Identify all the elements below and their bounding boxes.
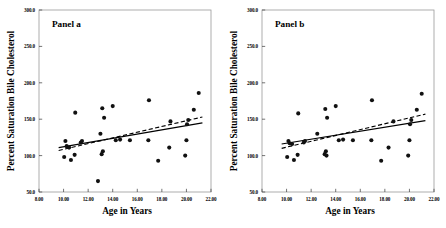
data-point [183,154,187,158]
data-point [184,138,188,142]
data-point [290,142,294,146]
data-point [285,155,289,159]
data-point [101,149,105,153]
data-point [98,132,102,136]
y-tick-label: 200.0 [24,80,36,86]
x-tick-label: 18.00 [156,196,168,202]
y-tick-label: 200.0 [247,80,259,86]
y-tick-label: 100.0 [247,153,259,159]
data-point [186,118,190,122]
data-point [73,153,77,157]
y-tick-label: 150.0 [24,116,36,122]
data-point [386,146,390,150]
data-points [285,92,424,163]
data-point [118,138,122,142]
data-point [370,98,374,102]
data-point [80,139,84,143]
data-point [334,104,338,108]
figure-container: 8.0010.0012.0014.0016.0018.0020.0022.005… [0,0,446,228]
y-tick-label: 250.0 [24,43,36,49]
y-tick-label: 300.0 [247,7,259,13]
panel-b: 8.0010.0012.0014.0016.0018.0020.0022.005… [223,0,446,228]
x-tick-label: 22.00 [206,196,218,202]
y-tick-label: 250.0 [247,43,259,49]
data-point [303,139,307,143]
data-point [167,146,171,150]
data-point [369,138,373,142]
data-point [351,138,355,142]
plot-area: 8.0010.0012.0014.0016.0018.0020.0022.005… [223,0,446,228]
data-point [408,122,412,126]
data-point [415,108,419,112]
data-point [296,153,300,157]
data-point [114,138,118,142]
data-point [63,139,67,143]
x-tick-label: 20.00 [181,196,193,202]
x-tick-label: 16.00 [132,196,144,202]
x-tick-label: 14.00 [107,196,119,202]
data-point [69,158,73,162]
data-point [62,155,66,159]
x-tick-label: 20.00 [404,196,416,202]
data-point [185,122,189,126]
x-axis-title: Age in Years [102,206,152,216]
y-tick-label: 300.0 [24,7,36,13]
data-point [323,107,327,111]
data-point [406,154,410,158]
x-axis: 8.0010.0012.0014.0016.0018.0020.0022.00 [35,189,217,202]
data-point [407,138,411,142]
x-tick-label: 22.00 [429,196,441,202]
data-point [96,179,100,183]
x-tick-label: 10.00 [58,196,70,202]
x-axis: 8.0010.0012.0014.0016.0018.0020.0022.00 [258,189,440,202]
panel-title: Panel a [52,19,81,29]
y-axis: 50.0100.0150.0200.0250.0300.0 [247,7,265,195]
data-point [391,119,395,123]
data-point [379,159,383,163]
data-point [192,108,196,112]
x-tick-label: 16.00 [355,196,367,202]
data-point [111,104,115,108]
regression-line-dashed [59,117,203,150]
x-tick-label: 12.00 [83,196,95,202]
data-point [296,111,300,115]
data-point [420,92,424,96]
data-points [62,91,201,183]
data-point [197,91,201,95]
y-tick-label: 150.0 [247,116,259,122]
data-point [341,138,345,142]
x-axis-title: Age in Years [325,206,375,216]
data-point [315,132,319,136]
plot-frame [39,10,211,192]
data-point [156,159,160,163]
x-tick-label: 10.00 [281,196,293,202]
y-axis: 50.0100.0150.0200.0250.0300.0 [24,7,42,195]
data-point [73,111,77,115]
data-point [102,116,106,120]
data-point [146,138,150,142]
data-point [168,119,172,123]
data-point [292,158,296,162]
y-tick-label: 50.0 [249,189,258,195]
data-point [324,154,328,158]
x-tick-label: 8.00 [35,196,44,202]
y-tick-label: 100.0 [24,153,36,159]
panel-a: 8.0010.0012.0014.0016.0018.0020.0022.005… [0,0,223,228]
data-point [324,149,328,153]
plot-area: 8.0010.0012.0014.0016.0018.0020.0022.005… [0,0,223,228]
data-point [325,116,329,120]
x-tick-label: 8.00 [258,196,267,202]
data-point [337,138,341,142]
x-tick-label: 12.00 [306,196,318,202]
plot-frame [262,10,434,192]
data-point [100,106,104,110]
data-point [147,98,151,102]
x-tick-label: 18.00 [379,196,391,202]
data-point [409,118,413,122]
data-point [128,138,132,142]
data-point [67,146,71,150]
x-tick-label: 14.00 [330,196,342,202]
panel-title: Panel b [275,19,304,29]
y-axis-title: Percent Saturation Bile Cholesterol [6,30,16,171]
y-tick-label: 50.0 [26,189,35,195]
